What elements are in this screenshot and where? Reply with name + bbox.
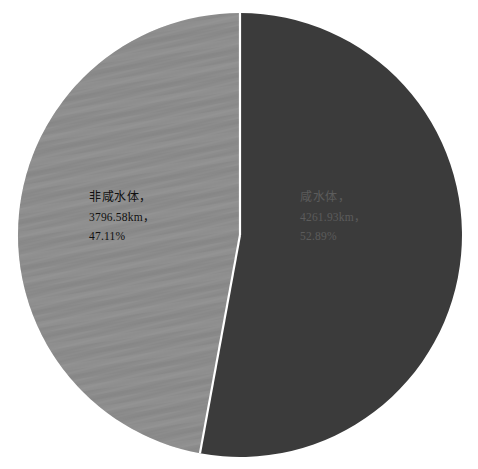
pie-label-saline-percent: 52.89% (300, 227, 365, 247)
pie-label-non-saline-value: 3796.58km， (89, 208, 154, 228)
pie-label-non-saline-name: 非咸水体， (89, 188, 154, 208)
pie-chart-canvas (0, 0, 478, 469)
pie-label-non-saline: 非咸水体， 3796.58km， 47.11% (89, 188, 154, 247)
pie-label-non-saline-percent: 47.11% (89, 227, 154, 247)
pie-label-saline-value: 4261.93km， (300, 208, 365, 228)
pie-chart: 非咸水体， 3796.58km， 47.11% 咸水体， 4261.93km， … (0, 0, 478, 469)
pie-label-saline: 咸水体， 4261.93km， 52.89% (300, 188, 365, 247)
pie-label-saline-name: 咸水体， (300, 188, 365, 208)
